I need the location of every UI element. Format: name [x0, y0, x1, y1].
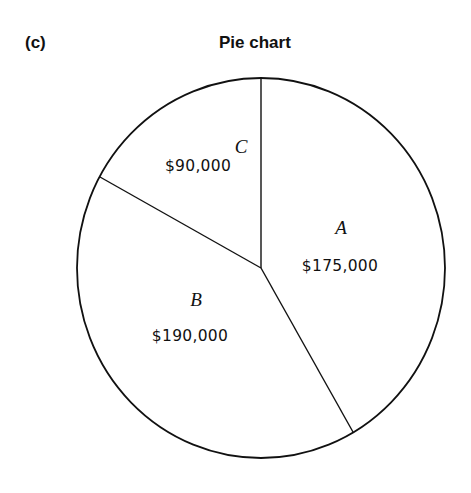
slice-b-value: $190,000 [152, 327, 228, 345]
slice-a-value: $175,000 [302, 257, 378, 275]
slice-c-name: C [235, 136, 248, 157]
slice-a-name: A [333, 217, 347, 238]
slice-b-name: B [190, 289, 202, 310]
slice-c-value: $90,000 [165, 157, 231, 175]
pie-chart: C $90,000 A $175,000 B $190,000 [0, 0, 471, 493]
